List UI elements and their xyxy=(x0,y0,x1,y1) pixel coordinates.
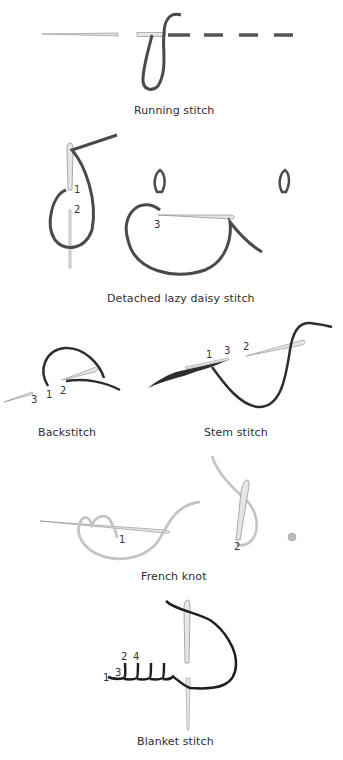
lazy-daisy-illustration xyxy=(50,135,289,274)
step-number: 4 xyxy=(133,651,139,662)
stem-stitch-illustration xyxy=(148,323,332,407)
step-number: 2 xyxy=(60,385,66,396)
french-knot-illustration xyxy=(40,456,296,559)
caption-backstitch: Backstitch xyxy=(38,426,96,439)
caption-blanket-stitch: Blanket stitch xyxy=(137,735,214,748)
blanket-stitch-illustration xyxy=(108,600,236,730)
caption-lazy-daisy: Detached lazy daisy stitch xyxy=(107,292,255,305)
caption-stem-stitch: Stem stitch xyxy=(204,426,268,439)
french-knot-result xyxy=(288,533,296,541)
step-number: 1 xyxy=(119,534,125,545)
running-stitch-illustration xyxy=(42,14,293,89)
step-number: 3 xyxy=(224,345,230,356)
step-number: 1 xyxy=(46,389,52,400)
step-number: 3 xyxy=(154,219,160,230)
step-number: 2 xyxy=(74,204,80,215)
step-number: 3 xyxy=(31,394,37,405)
step-number: 2 xyxy=(121,651,127,662)
needle-icon xyxy=(42,33,118,36)
step-number: 2 xyxy=(234,541,240,552)
caption-french-knot: French knot xyxy=(141,570,207,583)
step-number: 1 xyxy=(74,184,80,195)
step-number: 1 xyxy=(103,672,109,683)
step-number: 1 xyxy=(206,349,212,360)
step-number: 2 xyxy=(243,341,249,352)
step-number: 3 xyxy=(115,667,121,678)
thread-loop xyxy=(143,14,181,89)
caption-running-stitch: Running stitch xyxy=(134,104,214,117)
